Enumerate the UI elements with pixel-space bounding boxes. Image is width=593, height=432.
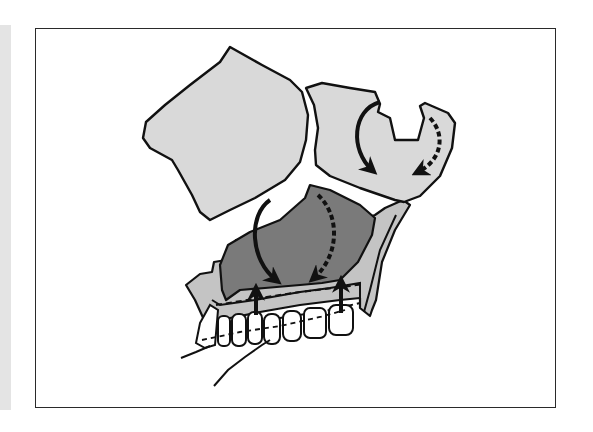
tooth-6 — [304, 308, 326, 338]
lip-line-upper — [181, 346, 210, 358]
tooth-2 — [232, 314, 246, 346]
skull-diagram — [0, 0, 593, 432]
tooth-1 — [218, 316, 230, 346]
tooth-3 — [248, 312, 262, 344]
tooth-4 — [264, 314, 280, 344]
nasal-block — [306, 83, 455, 202]
orbit-block — [143, 47, 308, 220]
tooth-5 — [283, 311, 301, 341]
